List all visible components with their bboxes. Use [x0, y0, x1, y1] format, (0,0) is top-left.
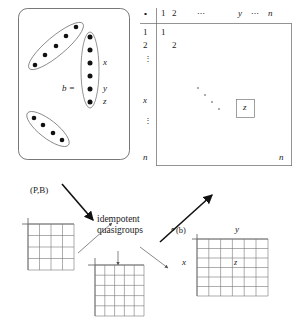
- point: [88, 35, 93, 40]
- grid-right-label: ∘(b): [170, 226, 186, 235]
- grid-right-col-label-y: y: [235, 225, 239, 234]
- boxed-entry-z: z: [243, 103, 247, 112]
- point-z: [88, 100, 93, 105]
- element-label-x: x: [103, 58, 107, 67]
- grid-middle-axes: [88, 258, 144, 316]
- center-label-line1: idempotent: [97, 214, 140, 225]
- grid-left-cells: [28, 224, 74, 270]
- diagonal-ellipsis-icon: [197, 87, 220, 110]
- grid-right-row-label-x: x: [182, 258, 186, 267]
- b-equals-label: b =: [62, 84, 75, 93]
- row-header-x: x: [143, 96, 147, 105]
- point: [88, 48, 93, 53]
- column-header-ellipsis-right: ⋯: [251, 10, 259, 18]
- point: [33, 63, 38, 68]
- point-x: [88, 61, 93, 66]
- block-bottom: [22, 106, 74, 152]
- column-header-ellipsis-left: ⋯: [197, 10, 205, 18]
- block-top: [23, 16, 89, 76]
- point: [41, 123, 46, 128]
- point: [54, 44, 59, 49]
- point: [32, 116, 37, 121]
- point-y: [88, 87, 93, 92]
- point: [60, 138, 65, 143]
- block-b-outline: [81, 32, 99, 108]
- composition-operator-icon: ∘: [143, 11, 148, 19]
- point: [64, 34, 69, 39]
- element-label-y: y: [103, 84, 107, 93]
- block-bottom-outline: [22, 106, 74, 152]
- block-b: [81, 32, 99, 108]
- point: [74, 25, 79, 30]
- grid-right: [192, 234, 276, 302]
- diagonal-entry-2: 2: [172, 41, 177, 50]
- column-header-1: 1: [161, 9, 166, 18]
- column-header-n: n: [268, 9, 273, 18]
- grid-middle-cells: [95, 265, 144, 316]
- grid-left: [22, 218, 80, 276]
- grid-middle: [88, 258, 150, 324]
- point: [51, 131, 56, 136]
- grid-right-cell-value-z: z: [234, 259, 237, 267]
- row-header-2: 2: [143, 41, 148, 50]
- arrow-design-to-center: [62, 184, 93, 220]
- diagonal-entry-1: 1: [161, 28, 166, 37]
- grid-left-axes: [22, 218, 74, 270]
- center-label-line2: quasigroups: [97, 225, 143, 236]
- point: [88, 74, 93, 79]
- element-label-z: z: [103, 97, 107, 106]
- row-header-ellipsis-bottom: ⋮: [144, 117, 152, 125]
- row-header-ellipsis-top: ⋮: [144, 55, 152, 63]
- figure-canvas: b = x y z (P,B) ∘ 1 2 ⋯ y ⋯ n 1 2 ⋮ x ⋮ …: [0, 0, 300, 329]
- point: [43, 53, 48, 58]
- column-header-2: 2: [172, 9, 177, 18]
- column-header-y: y: [238, 9, 242, 18]
- row-header-1: 1: [143, 28, 148, 37]
- grid-right-cells: [197, 239, 268, 296]
